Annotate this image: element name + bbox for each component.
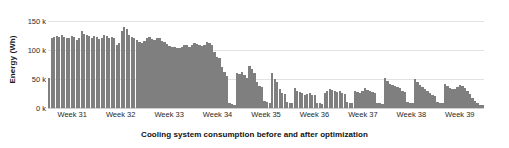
x-tick-label: Week 37 bbox=[348, 110, 377, 119]
y-tick-label: 100 k bbox=[18, 46, 46, 55]
plot-area bbox=[48, 21, 484, 108]
y-tick-label: 0 k bbox=[18, 104, 46, 113]
x-axis-tick-labels: Week 31Week 32Week 33Week 34Week 35Week … bbox=[48, 110, 484, 124]
x-tick-label: Week 33 bbox=[154, 110, 183, 119]
y-tick-label: 150 k bbox=[18, 17, 46, 26]
x-axis-line bbox=[48, 108, 484, 109]
x-tick-label: Week 36 bbox=[300, 110, 329, 119]
bar-series bbox=[48, 21, 484, 108]
chart-title: Cooling system consumption before and af… bbox=[0, 130, 509, 139]
x-tick-label: Week 34 bbox=[203, 110, 232, 119]
y-axis-tick-labels: 0 k50 k100 k150 k bbox=[18, 0, 46, 148]
x-tick-label: Week 32 bbox=[106, 110, 135, 119]
x-tick-label: Week 35 bbox=[251, 110, 280, 119]
y-tick-label: 50 k bbox=[18, 75, 46, 84]
x-tick-label: Week 39 bbox=[445, 110, 474, 119]
x-tick-label: Week 31 bbox=[57, 110, 86, 119]
chart-figure: Energy (Wh) 0 k50 k100 k150 k Week 31Wee… bbox=[0, 0, 509, 148]
x-tick-label: Week 38 bbox=[397, 110, 426, 119]
y-axis-title-text: Energy (Wh) bbox=[8, 35, 17, 83]
